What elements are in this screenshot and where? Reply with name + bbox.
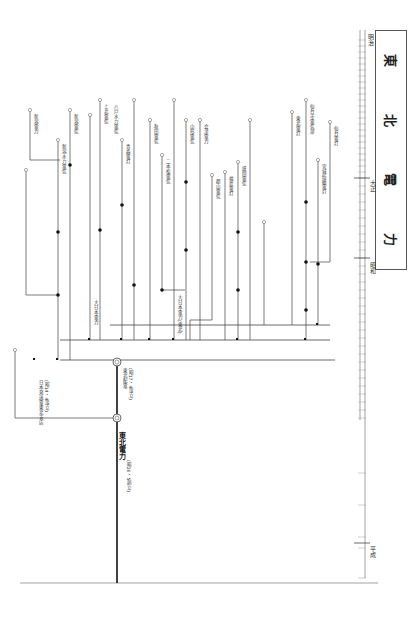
genealogy-diagram xyxy=(0,0,419,625)
era-meiji: 明治 xyxy=(366,34,375,46)
event-nodes xyxy=(56,163,320,312)
final-company-name: 東北電力 xyxy=(117,432,127,460)
intermediate-note: (昭17・4設立) xyxy=(127,368,132,400)
title-char: 電 xyxy=(382,173,401,186)
start-nodes xyxy=(13,98,331,351)
company-label: 宮城紡績電灯 xyxy=(320,164,325,194)
company-label: 盛岡電気 xyxy=(240,166,245,186)
title-char: 力 xyxy=(382,233,401,246)
company-label: 八戸水力電気 xyxy=(112,104,117,134)
company-label: 東北電灯 xyxy=(294,116,299,136)
title-char: 東 xyxy=(382,54,401,67)
merge-label: 大日本電力 xyxy=(92,300,97,325)
era-dividers xyxy=(354,178,370,543)
company-label: 秋田電気 xyxy=(152,124,157,144)
merge-label: 大日本電力(東北) xyxy=(176,295,181,334)
intermediate-label: 東北配電 xyxy=(121,368,126,388)
merge-bars xyxy=(60,325,335,360)
company-label: 郡山電気 xyxy=(214,179,219,199)
company-label: 青森電灯 xyxy=(124,144,129,164)
company-label: 新潟電力 xyxy=(32,114,37,134)
company-label: 会津電力 xyxy=(202,124,207,144)
final-company-note: (昭26・5創立) xyxy=(125,460,131,492)
era-taisho: 大正 xyxy=(368,180,377,192)
title-box: 東 北 電 力 xyxy=(375,30,407,270)
company-label: 仙台市電気部 xyxy=(308,104,313,134)
company-label: 仙台電灯 xyxy=(332,126,337,146)
merge-note: (昭14・4設立) xyxy=(43,380,48,412)
timeline-axis xyxy=(20,30,378,583)
company-label: 新潟電気 xyxy=(72,114,77,134)
company-label: 上北電気 xyxy=(102,104,107,124)
company-label: 新潟水力電気 xyxy=(60,144,65,174)
era-heisei: 平成 xyxy=(368,546,377,558)
company-label: 二本松電気 xyxy=(164,159,169,184)
company-label: 山形電気 xyxy=(188,124,193,144)
era-showa: 昭和 xyxy=(368,262,377,274)
title-char: 北 xyxy=(382,114,401,127)
merge-label: 日本発送電東北支店 xyxy=(37,380,42,425)
company-label: 福島電灯 xyxy=(227,176,232,196)
merge-node-tohoku xyxy=(113,414,121,422)
merge-node-haiden xyxy=(113,358,121,366)
